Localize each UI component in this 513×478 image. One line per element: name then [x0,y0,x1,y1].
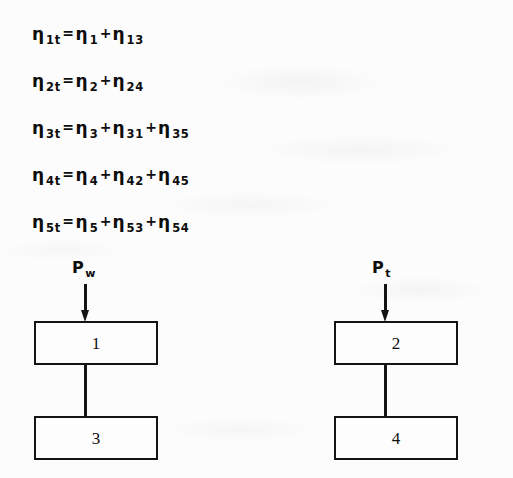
block-1[interactable]: 1 [34,321,158,365]
arrow-shaft [384,284,387,312]
connector-line [384,363,387,418]
input-symbol: P [372,258,384,277]
down-arrow-icon [381,284,390,322]
input-label-pw: Pw [72,258,97,280]
block-label: 2 [392,335,401,352]
input-label-pt: Pt [372,258,392,280]
block-4[interactable]: 4 [334,416,458,460]
block-label: 4 [392,430,401,447]
block-3[interactable]: 3 [34,416,158,460]
scanned-page: η1t=η1+η13 η2t=η2+η24 η3t=η3+η31+η35 η4t… [0,0,513,478]
block-diagram: Pw 1 3 Pt 2 [0,0,513,478]
block-label: 3 [92,430,101,447]
connector-line [84,363,87,418]
block-label: 1 [92,335,101,352]
arrow-shaft [84,284,87,312]
input-symbol: P [72,258,84,277]
input-subscript: w [84,267,97,280]
input-subscript: t [384,267,392,280]
block-2[interactable]: 2 [334,321,458,365]
down-arrow-icon [81,284,90,322]
